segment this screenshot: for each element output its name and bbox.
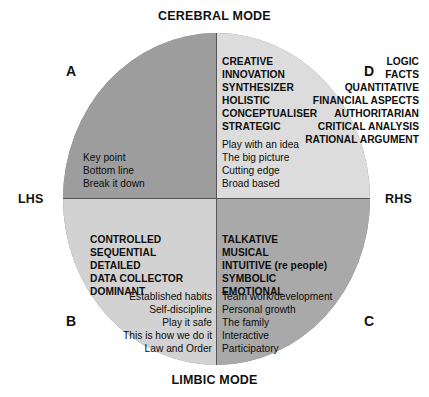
text-line: Play with an idea [222, 138, 299, 151]
text-line: The big picture [222, 151, 299, 164]
rhs-label: RHS [385, 192, 412, 206]
text-line: Law and Order [84, 342, 212, 355]
text-line: INNOVATION [222, 68, 317, 81]
cerebral-mode-label: CEREBRAL MODE [0, 9, 429, 23]
quadrant-d-phrases: Play with an ideaThe big pictureCutting … [222, 138, 299, 190]
lhs-label: LHS [18, 192, 44, 206]
text-line: The family [222, 316, 332, 329]
text-line: Play it safe [84, 316, 212, 329]
text-line: SYMBOLIC [222, 272, 327, 285]
text-line: Self-discipline [84, 303, 212, 316]
quadrant-c-traits: TALKATIVEMUSICALINTUITIVE (re people)SYM… [222, 233, 327, 298]
text-line: Key point [83, 151, 145, 164]
quadrant-d-traits: CREATIVEINNOVATIONSYNTHESIZERHOLISTICCON… [222, 55, 317, 133]
limbic-mode-label: LIMBIC MODE [0, 373, 429, 387]
text-line: CONTROLLED [90, 233, 183, 246]
text-line: CRITICAL ANALYSIS [305, 120, 419, 133]
quadrant-b-phrases: Established habitsSelf-disciplinePlay it… [84, 290, 212, 355]
text-line: DATA COLLECTOR [90, 272, 183, 285]
text-line: Break it down [83, 177, 145, 190]
quadrant-a-phrases: Key pointBottom lineBreak it down [83, 151, 145, 190]
quadrant-a-traits: LOGICFACTSQUANTITATIVEFINANCIAL ASPECTSA… [305, 55, 419, 146]
text-line: CONCEPTUALISER [222, 107, 317, 120]
text-line: SEQUENTIAL [90, 246, 183, 259]
text-line: This is how we do it [84, 329, 212, 342]
text-line: Team work/development [222, 290, 332, 303]
text-line: INTUITIVE (re people) [222, 259, 327, 272]
text-line: AUTHORITARIAN [305, 107, 419, 120]
text-line: FINANCIAL ASPECTS [305, 94, 419, 107]
text-line: STRATEGIC [222, 120, 317, 133]
text-line: RATIONAL ARGUMENT [305, 133, 419, 146]
text-line: LOGIC [305, 55, 419, 68]
text-line: Established habits [84, 290, 212, 303]
text-line: FACTS [305, 68, 419, 81]
text-line: DETAILED [90, 259, 183, 272]
text-line: Bottom line [83, 164, 145, 177]
text-line: CREATIVE [222, 55, 317, 68]
quadrant-b-traits: CONTROLLEDSEQUENTIALDETAILEDDATA COLLECT… [90, 233, 183, 298]
text-line: Broad based [222, 177, 299, 190]
text-line: Personal growth [222, 303, 332, 316]
text-line: QUANTITATIVE [305, 81, 419, 94]
quadrant-c-phrases: Team work/developmentPersonal growthThe … [222, 290, 332, 355]
text-line: TALKATIVE [222, 233, 327, 246]
text-line: SYNTHESIZER [222, 81, 317, 94]
text-line: MUSICAL [222, 246, 327, 259]
text-line: HOLISTIC [222, 94, 317, 107]
text-line: Interactive [222, 329, 332, 342]
text-line: Participatory [222, 342, 332, 355]
text-line: Cutting edge [222, 164, 299, 177]
